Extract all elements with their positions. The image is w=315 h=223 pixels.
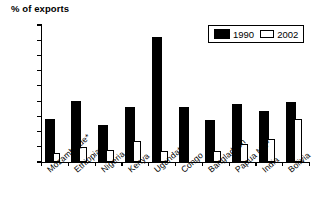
bar-1990	[152, 37, 162, 162]
legend-swatch-2002-icon	[260, 30, 274, 38]
bar-group	[148, 25, 175, 162]
x-axis-tick	[68, 162, 69, 166]
legend-item-2002: 2002	[260, 29, 298, 40]
bar-chart: % of exports 0102030405060708090 1990 20…	[0, 0, 315, 223]
bar-group	[282, 25, 309, 162]
bar-group	[41, 25, 68, 162]
x-axis-tick	[95, 162, 96, 166]
chart-legend: 1990 2002	[208, 25, 304, 43]
x-axis-tick	[229, 162, 230, 166]
x-axis-tick	[309, 162, 310, 166]
legend-label-2002: 2002	[277, 29, 298, 40]
y-axis-title: % of exports	[11, 3, 69, 14]
x-axis-tick	[175, 162, 176, 166]
legend-item-1990: 1990	[214, 29, 254, 40]
bar-group	[95, 25, 122, 162]
x-axis-tick	[41, 162, 42, 166]
x-axis-tick	[202, 162, 203, 166]
bar-group	[121, 25, 148, 162]
x-axis-tick	[282, 162, 283, 166]
x-axis-tick	[121, 162, 122, 166]
bar-group	[202, 25, 229, 162]
bar-group	[175, 25, 202, 162]
legend-label-1990: 1990	[233, 29, 254, 40]
x-axis-tick	[148, 162, 149, 166]
x-axis-tick	[255, 162, 256, 166]
legend-swatch-1990-icon	[214, 29, 230, 39]
